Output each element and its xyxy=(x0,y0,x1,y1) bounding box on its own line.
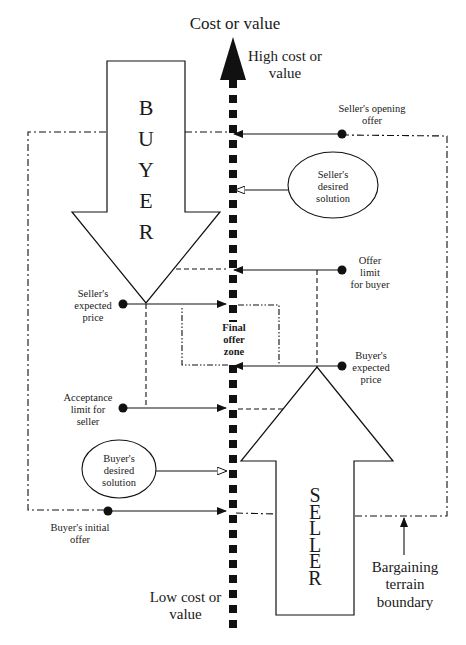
offer-limit-for-buyer-connector xyxy=(176,266,347,368)
buyer-letter: R xyxy=(136,216,156,247)
buyer-letter: B xyxy=(136,92,156,123)
buyers-expected-price-connector xyxy=(234,362,347,371)
buyers-expected-price-label: Buyer's expected price xyxy=(346,350,396,386)
label-line: offer xyxy=(322,115,422,127)
label-line: offer xyxy=(214,334,254,346)
low-cost-line1: Low cost or xyxy=(148,589,223,606)
high-cost-line2: value xyxy=(245,65,325,82)
sellers-opening-offer-label: Seller's opening offer xyxy=(322,103,422,127)
label-line: Final xyxy=(214,322,254,334)
label-line: Buyer's xyxy=(89,453,149,465)
bargaining-terrain-boundary-label: Bargaining terrain boundary xyxy=(365,559,445,611)
offer-limit-for-buyer-label: Offer limit for buyer xyxy=(345,255,395,291)
buyers-desired-solution-label: Buyer's desired solution xyxy=(89,453,149,489)
label-line: for buyer xyxy=(345,279,395,291)
seller-label: S E L L E R xyxy=(305,487,325,586)
axis-title: Cost or value xyxy=(180,14,290,34)
label-line: price xyxy=(68,312,118,324)
sellers-desired-solution-label: Seller's desired solution xyxy=(303,169,363,205)
buyers-initial-offer-connector xyxy=(104,507,227,516)
buyer-label: B U Y E R xyxy=(136,92,156,247)
high-cost-label: High cost or value xyxy=(245,48,325,83)
label-line: Buyer's xyxy=(346,350,396,362)
label-line: Offer xyxy=(345,255,395,267)
label-line: expected xyxy=(346,362,396,374)
low-cost-label: Low cost or value xyxy=(148,589,223,624)
label-line: expected xyxy=(68,300,118,312)
buyers-initial-offer-label: Buyer's initial offer xyxy=(40,522,120,546)
label-line: solution xyxy=(303,193,363,205)
label-line: limit for xyxy=(58,404,118,416)
label-line: Seller's xyxy=(303,169,363,181)
label-line: Acceptance xyxy=(58,392,118,404)
high-cost-line1: High cost or xyxy=(245,48,325,65)
label-line: desired xyxy=(89,465,149,477)
buyer-letter: U xyxy=(136,123,156,154)
label-line: terrain xyxy=(365,576,445,593)
label-line: seller xyxy=(58,416,118,428)
label-line: Buyer's initial xyxy=(40,522,120,534)
label-line: limit xyxy=(345,267,395,279)
sellers-opening-offer-connector xyxy=(234,130,347,139)
label-line: Bargaining xyxy=(365,559,445,576)
label-line: Seller's opening xyxy=(322,103,422,115)
label-line: Seller's xyxy=(68,288,118,300)
label-line: desired xyxy=(303,181,363,193)
buyer-letter: E xyxy=(136,185,156,216)
label-line: boundary xyxy=(365,594,445,611)
buyer-letter: Y xyxy=(136,154,156,185)
label-line: price xyxy=(346,374,396,386)
label-line: solution xyxy=(89,477,149,489)
low-cost-line2: value xyxy=(148,606,223,623)
acceptance-limit-for-seller-label: Acceptance limit for seller xyxy=(58,392,118,428)
acceptance-limit-for-seller-connector xyxy=(119,404,285,413)
seller-letter: R xyxy=(305,570,325,587)
final-offer-zone-label: Final offer zone xyxy=(214,322,254,358)
label-line: offer xyxy=(40,534,120,546)
sellers-expected-price-connector xyxy=(119,300,227,409)
sellers-expected-price-label: Seller's expected price xyxy=(68,288,118,324)
label-line: zone xyxy=(214,346,254,358)
